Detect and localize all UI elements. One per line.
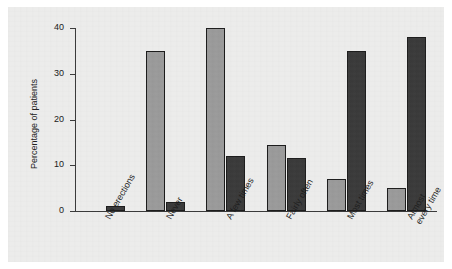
bar-light-1 [146, 51, 165, 211]
chart-figure: Percentage of patients 010203040 No erec… [0, 0, 452, 269]
y-tick-20 [70, 120, 75, 121]
bar-light-3 [267, 145, 286, 211]
y-tick-40 [70, 28, 75, 29]
y-tick-30 [70, 74, 75, 75]
y-tick-label-10: 10 [44, 159, 64, 169]
y-tick-label-30: 30 [44, 68, 64, 78]
bar-light-4 [327, 179, 346, 211]
bar-light-2 [206, 28, 225, 211]
y-axis-line [75, 28, 76, 212]
y-tick-label-0: 0 [44, 205, 64, 215]
y-tick-10 [70, 165, 75, 166]
x-axis-line [75, 211, 437, 212]
x-label-line: No erections [103, 172, 137, 221]
y-tick-label-40: 40 [44, 22, 64, 32]
bar-light-5 [387, 188, 406, 211]
x-label-0: No erections [103, 172, 137, 221]
chart-panel: Percentage of patients 010203040 No erec… [8, 7, 444, 262]
y-axis-label: Percentage of patients [29, 44, 39, 204]
y-tick-label-20: 20 [44, 114, 64, 124]
y-tick-0 [70, 211, 75, 212]
